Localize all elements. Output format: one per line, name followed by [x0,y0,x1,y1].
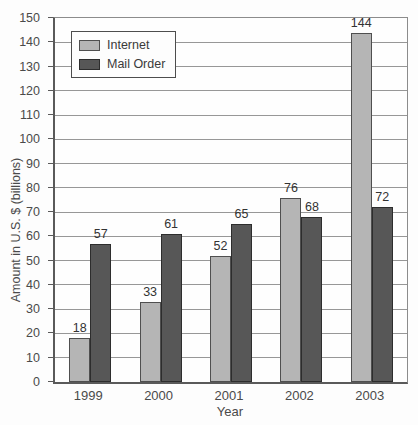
bar-mail-order-2001 [231,224,252,382]
legend-item-mail-order: Mail Order [79,57,165,71]
bar-internet-2001 [210,256,231,382]
bar-value-label-mail-order-1999: 57 [94,227,108,241]
bar-chart-figure: Amount in U.S. $ (billions) 010203040506… [0,0,418,425]
bar-internet-1999 [69,338,90,382]
y-tick-label-130: 130 [4,60,40,74]
bar-value-label-mail-order-2002: 68 [305,200,319,214]
y-tick-label-0: 0 [4,375,40,389]
x-tick-label-1999: 1999 [74,388,103,403]
plot-area: InternetMail Order 185733615265766814472 [53,17,408,384]
y-axis-ticks: 0102030405060708090100110120130140150 [0,17,53,384]
bar-mail-order-2002 [301,217,322,382]
legend-swatch-internet [79,40,100,51]
bar-mail-order-2003 [372,207,393,382]
y-tick-label-150: 150 [4,11,40,25]
y-tick-label-20: 20 [4,326,40,340]
bar-value-label-internet-2000: 33 [143,285,157,299]
x-tick-label-2000: 2000 [144,388,173,403]
x-axis-label: Year [217,404,243,419]
legend-swatch-mail-order [79,59,100,70]
y-tick-label-70: 70 [4,205,40,219]
y-tick-label-110: 110 [4,108,40,122]
y-tick-label-10: 10 [4,351,40,365]
x-tick-label-2001: 2001 [215,388,244,403]
bar-mail-order-2000 [161,234,182,382]
bar-internet-2002 [280,198,301,382]
y-tick-label-60: 60 [4,229,40,243]
bar-value-label-mail-order-2003: 72 [375,190,389,204]
y-tick-label-30: 30 [4,302,40,316]
bar-value-label-internet-2002: 76 [284,181,298,195]
legend-label-internet: Internet [107,38,149,52]
x-tick-label-2002: 2002 [285,388,314,403]
bar-value-label-internet-2001: 52 [214,239,228,253]
y-tick-label-120: 120 [4,84,40,98]
legend-item-internet: Internet [79,38,165,52]
x-tick-label-2003: 2003 [355,388,384,403]
y-tick-label-40: 40 [4,278,40,292]
x-axis-ticks: 19992000200120022003 [53,387,408,403]
bar-value-label-internet-1999: 18 [73,321,87,335]
bar-internet-2000 [140,302,161,382]
y-tick-label-140: 140 [4,35,40,49]
legend: InternetMail Order [71,31,176,78]
bar-mail-order-1999 [90,244,111,382]
bar-internet-2003 [351,33,372,382]
bar-value-label-mail-order-2001: 65 [235,207,249,221]
y-tick-label-50: 50 [4,254,40,268]
legend-label-mail-order: Mail Order [107,57,165,71]
y-tick-label-80: 80 [4,181,40,195]
bar-value-label-mail-order-2000: 61 [164,217,178,231]
y-tick-label-90: 90 [4,157,40,171]
y-tick-label-100: 100 [4,132,40,146]
bar-value-label-internet-2003: 144 [351,16,372,30]
